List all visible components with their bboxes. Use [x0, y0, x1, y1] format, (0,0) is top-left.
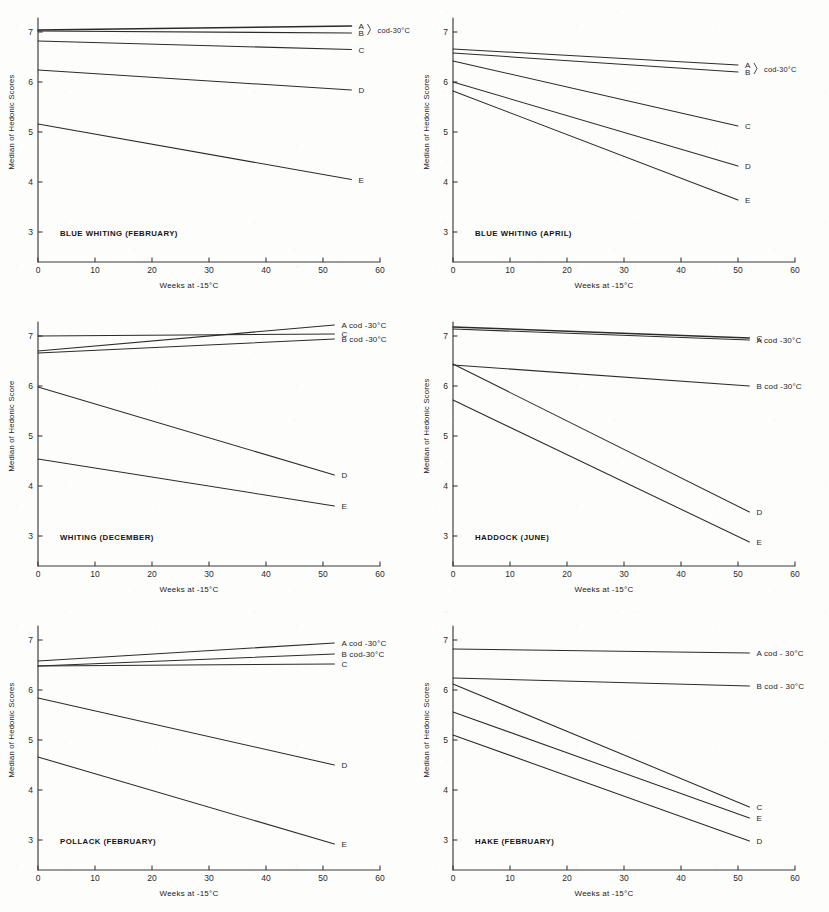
x-axis-title: Weeks at -15°C — [575, 585, 634, 594]
panel-caption: BLUE WHITING (FEBRUARY) — [60, 229, 178, 238]
series-label-A: A cod -30°C — [341, 321, 386, 330]
y-axis-title: Median of Hedonic Scores — [422, 74, 431, 169]
x-tick-label-40: 40 — [261, 569, 271, 579]
x-tick-label-60: 60 — [790, 873, 800, 883]
series-label-A: A cod - 30°C — [756, 649, 803, 658]
x-tick-label-10: 10 — [90, 265, 100, 275]
x-tick-label-0: 0 — [451, 569, 456, 579]
y-axis-title: Median of Hedonic Scores — [422, 682, 431, 777]
series-label-D: D — [359, 86, 365, 95]
series-line-E — [38, 459, 334, 506]
y-tick-label-5: 5 — [28, 735, 33, 745]
x-tick-label-50: 50 — [318, 265, 328, 275]
series-line-E — [38, 124, 352, 180]
series-label-B: B cod -30°C — [756, 382, 801, 391]
y-tick-label-4: 4 — [28, 481, 33, 491]
y-tick-label-3: 3 — [28, 227, 33, 237]
x-tick-label-0: 0 — [36, 569, 41, 579]
x-axis-title: Weeks at -15°C — [575, 281, 634, 290]
chart-canvas-whiting-december: 010203040506034567Weeks at -15°CMedian o… — [0, 304, 414, 608]
y-tick-label-5: 5 — [443, 735, 448, 745]
y-tick-label-5: 5 — [28, 431, 33, 441]
series-line-E — [38, 757, 334, 844]
x-tick-label-30: 30 — [619, 569, 629, 579]
x-tick-label-60: 60 — [375, 265, 385, 275]
y-tick-label-6: 6 — [28, 77, 33, 87]
series-label-D: D — [756, 508, 762, 517]
x-tick-label-50: 50 — [733, 873, 743, 883]
x-tick-label-60: 60 — [790, 265, 800, 275]
chart-panel-pollack-february: 010203040506034567Weeks at -15°CMedian o… — [0, 608, 414, 912]
x-axis-title: Weeks at -15°C — [160, 889, 219, 898]
series-line-E — [453, 400, 749, 542]
series-label-C: C — [756, 803, 762, 812]
x-tick-label-0: 0 — [36, 873, 41, 883]
series-line-A — [38, 325, 334, 351]
x-tick-label-60: 60 — [375, 569, 385, 579]
y-tick-label-3: 3 — [443, 227, 448, 237]
y-axis-title: Median of Hedonic Scores — [7, 74, 16, 169]
series-label-A: A cod -30°C — [341, 639, 386, 648]
y-tick-label-7: 7 — [28, 635, 33, 645]
series-line-B — [453, 678, 749, 686]
x-tick-label-50: 50 — [318, 873, 328, 883]
y-axis-title: Median of Hedonic Scores — [422, 378, 431, 473]
group-annotation-cod: cod-30°C — [764, 65, 797, 74]
series-label-D: D — [756, 837, 762, 846]
chart-canvas-hake-february: 010203040506034567Weeks at -15°CMedian o… — [415, 608, 829, 912]
series-line-D — [38, 387, 334, 475]
y-tick-label-3: 3 — [28, 835, 33, 845]
series-label-E: E — [745, 196, 751, 205]
x-tick-label-10: 10 — [90, 873, 100, 883]
x-tick-label-40: 40 — [676, 569, 686, 579]
y-tick-label-5: 5 — [443, 127, 448, 137]
series-label-E: E — [341, 502, 347, 511]
chart-panel-hake-february: 010203040506034567Weeks at -15°CMedian o… — [415, 608, 829, 912]
x-tick-label-10: 10 — [90, 569, 100, 579]
chart-canvas-haddock-june: 010203040506034567Weeks at -15°CMedian o… — [415, 304, 829, 608]
y-tick-label-5: 5 — [28, 127, 33, 137]
group-annotation-cod: cod-30°C — [378, 26, 411, 35]
x-tick-label-30: 30 — [204, 873, 214, 883]
y-tick-label-7: 7 — [28, 331, 33, 341]
x-tick-label-20: 20 — [562, 873, 572, 883]
x-tick-label-40: 40 — [676, 265, 686, 275]
series-label-C: C — [745, 122, 751, 131]
panel-caption: POLLACK (FEBRUARY) — [60, 837, 156, 846]
series-label-B: B — [745, 68, 751, 77]
x-tick-label-10: 10 — [505, 569, 515, 579]
y-tick-label-6: 6 — [28, 685, 33, 695]
series-line-D — [38, 698, 334, 765]
series-line-C — [38, 41, 352, 50]
x-tick-label-20: 20 — [147, 265, 157, 275]
x-tick-label-50: 50 — [733, 265, 743, 275]
series-label-E: E — [756, 814, 762, 823]
x-tick-label-30: 30 — [619, 873, 629, 883]
y-tick-label-4: 4 — [28, 177, 33, 187]
y-tick-label-6: 6 — [28, 381, 33, 391]
y-tick-label-5: 5 — [443, 431, 448, 441]
x-tick-label-0: 0 — [36, 265, 41, 275]
y-tick-label-6: 6 — [443, 381, 448, 391]
panel-caption: BLUE WHITING (APRIL) — [475, 229, 572, 238]
y-tick-label-7: 7 — [443, 27, 448, 37]
series-line-B — [38, 339, 334, 353]
x-axis-title: Weeks at -15°C — [160, 585, 219, 594]
series-line-C — [38, 334, 334, 336]
x-tick-label-10: 10 — [505, 873, 515, 883]
group-brace-ab — [368, 24, 371, 35]
y-tick-label-6: 6 — [443, 77, 448, 87]
x-tick-label-30: 30 — [204, 265, 214, 275]
series-line-A — [453, 649, 749, 653]
chart-canvas-blue-whiting-february: 010203040506034567Weeks at -15°CMedian o… — [0, 0, 414, 304]
series-line-C — [453, 61, 738, 126]
y-tick-label-3: 3 — [443, 531, 448, 541]
series-line-B — [453, 365, 749, 386]
chart-panel-blue-whiting-february: 010203040506034567Weeks at -15°CMedian o… — [0, 0, 414, 304]
series-label-D: D — [745, 162, 751, 171]
panel-caption: HAKE (FEBRUARY) — [475, 837, 554, 846]
x-tick-label-50: 50 — [318, 569, 328, 579]
x-axis-title: Weeks at -15°C — [160, 281, 219, 290]
series-label-C: C — [341, 660, 347, 669]
x-axis-title: Weeks at -15°C — [575, 889, 634, 898]
